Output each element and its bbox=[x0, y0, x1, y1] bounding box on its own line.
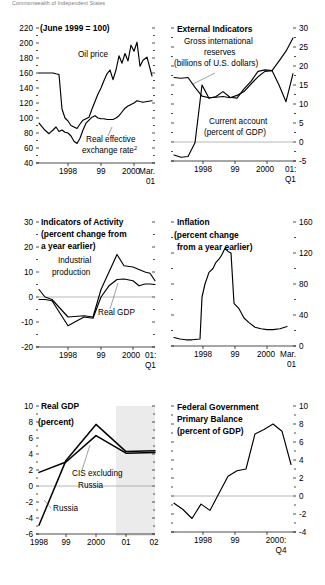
svg-text:220: 220 bbox=[19, 24, 33, 33]
svg-text:140: 140 bbox=[19, 84, 33, 93]
svg-text:40: 40 bbox=[24, 159, 34, 168]
x-axis-ticks bbox=[203, 532, 267, 535]
x-axis-ticks bbox=[68, 163, 134, 166]
series-inflation bbox=[174, 248, 287, 339]
svg-text:-20: -20 bbox=[21, 343, 33, 352]
series-label-reserves-units: (billions of U.S. dollars) bbox=[174, 59, 258, 68]
series-label-current-account-units: (percent of GDP) bbox=[204, 128, 266, 137]
panel-title-line2: (percent change from bbox=[41, 229, 127, 239]
leader-line-reserves bbox=[193, 73, 215, 84]
leader-line-russia bbox=[44, 500, 51, 508]
panel-real-gdp: 10 8 6 4 2 0 -2 -4 -6 Real GDP (percent)… bbox=[0, 388, 162, 583]
svg-text:160: 160 bbox=[299, 218, 313, 227]
series-label-industrial-line2: production bbox=[52, 268, 91, 277]
xtick-01-sub: Q1 bbox=[285, 175, 296, 184]
xtick-99: 99 bbox=[96, 167, 106, 176]
svg-text:5: 5 bbox=[299, 119, 304, 128]
series-label-reer-line2: exchange rate2 bbox=[82, 145, 137, 155]
svg-text:60: 60 bbox=[24, 144, 34, 153]
svg-text:160: 160 bbox=[19, 69, 33, 78]
series-label-russia: Russia bbox=[53, 504, 78, 513]
xtick-2000: 2000 bbox=[122, 167, 141, 176]
series-federal-primary-balance bbox=[174, 424, 291, 519]
svg-text:30: 30 bbox=[299, 24, 309, 33]
panel-external-indicators: 30 25 20 15 10 5 0 -5 External Indicator… bbox=[163, 14, 325, 209]
svg-text:-4: -4 bbox=[299, 528, 307, 537]
svg-text:10: 10 bbox=[299, 100, 309, 109]
leader-line-cis bbox=[82, 445, 90, 470]
series-label-reserves-line1: Gross international bbox=[184, 37, 253, 46]
xtick-mar: Mar. bbox=[280, 350, 296, 359]
svg-text:-2: -2 bbox=[26, 498, 34, 507]
xtick-99: 99 bbox=[230, 536, 240, 545]
svg-text:-2: -2 bbox=[299, 510, 307, 519]
panel-title-line2: (percent) bbox=[38, 417, 74, 427]
panel-title-line1: Indicators of Activity bbox=[41, 217, 124, 227]
panel-title-line2: Primary Balance bbox=[177, 414, 243, 424]
svg-text:-10: -10 bbox=[21, 318, 33, 327]
svg-text:6: 6 bbox=[299, 438, 304, 447]
xtick-1998: 1998 bbox=[194, 350, 213, 359]
series-label-real-gdp: Real GDP bbox=[98, 308, 135, 317]
svg-text:0: 0 bbox=[299, 138, 304, 147]
series-label-current-account: Current account bbox=[209, 117, 268, 126]
panel-title-line3: from a year earlier) bbox=[177, 242, 253, 252]
xtick-1998: 1998 bbox=[30, 538, 49, 547]
xtick-2000: 2000: bbox=[266, 536, 287, 545]
svg-text:80: 80 bbox=[24, 129, 34, 138]
svg-text:120: 120 bbox=[299, 249, 313, 258]
panel-indicators-of-activity: 30 20 10 0 -10 -20 Indicators of Activit… bbox=[0, 193, 162, 388]
svg-text:4: 4 bbox=[28, 450, 33, 459]
figure-container: Commonwealth of Independent States 220 2… bbox=[0, 0, 325, 585]
xtick-99: 99 bbox=[61, 538, 71, 547]
xtick-02: 02 bbox=[149, 538, 159, 547]
xtick-mar-sub: 01 bbox=[287, 360, 297, 369]
svg-text:80: 80 bbox=[299, 280, 309, 289]
xtick-1998: 1998 bbox=[194, 536, 213, 545]
xtick-2000: 2000 bbox=[256, 165, 275, 174]
svg-text:4: 4 bbox=[299, 456, 304, 465]
svg-text:180: 180 bbox=[19, 54, 33, 63]
x-axis-ticks bbox=[68, 347, 133, 350]
xtick-1998: 1998 bbox=[59, 167, 78, 176]
xtick-01-sub: Q1 bbox=[145, 361, 156, 370]
series-label-cis-line1: CIS excluding bbox=[72, 469, 123, 478]
svg-text:10: 10 bbox=[24, 268, 34, 277]
svg-text:-4: -4 bbox=[26, 514, 34, 523]
xtick-99: 99 bbox=[230, 165, 240, 174]
panel-title-line1: Federal Government bbox=[177, 402, 259, 412]
panel-title-line1: Real GDP bbox=[41, 401, 80, 411]
panel-title-line1: Inflation bbox=[177, 217, 210, 227]
svg-text:8: 8 bbox=[299, 420, 304, 429]
svg-text:2: 2 bbox=[28, 466, 33, 475]
panel-title-line3: a year earlier) bbox=[41, 241, 96, 251]
svg-text:6: 6 bbox=[28, 434, 33, 443]
series-label-industrial-line1: Industrial bbox=[58, 256, 91, 265]
xtick-99: 99 bbox=[230, 350, 240, 359]
svg-text:10: 10 bbox=[299, 402, 309, 411]
series-label-oil-price: Oil price bbox=[78, 50, 108, 59]
series-label-cis-line2: Russia bbox=[78, 481, 103, 490]
xtick-01: 01: bbox=[285, 165, 296, 174]
panel-inflation: 160 120 80 40 0 Inflation (percent chang… bbox=[163, 193, 325, 388]
xtick-2000: 2000 bbox=[87, 538, 106, 547]
svg-text:20: 20 bbox=[24, 243, 34, 252]
panel-federal-primary-balance: 10 8 6 4 2 0 -2 -4 Federal Government Pr… bbox=[163, 388, 325, 583]
series-label-reer-line1: Real effective bbox=[86, 135, 136, 144]
x-axis-ticks bbox=[203, 161, 267, 164]
xtick-mar-sub: 01 bbox=[146, 177, 156, 186]
svg-text:0: 0 bbox=[28, 293, 33, 302]
x-axis-ticks bbox=[203, 346, 267, 349]
svg-text:100: 100 bbox=[19, 114, 33, 123]
svg-text:-5: -5 bbox=[299, 157, 307, 166]
xtick-mar: Mar. bbox=[139, 167, 155, 176]
xtick-1998: 1998 bbox=[59, 351, 78, 360]
svg-text:0: 0 bbox=[28, 482, 33, 491]
svg-text:2: 2 bbox=[299, 474, 304, 483]
panel-title-line2: (percent change bbox=[174, 230, 239, 240]
panel-title: External Indicators bbox=[177, 24, 253, 34]
figure-title: Commonwealth of Independent States bbox=[12, 0, 105, 6]
xtick-99: 99 bbox=[96, 351, 106, 360]
svg-text:15: 15 bbox=[299, 81, 309, 90]
svg-text:200: 200 bbox=[19, 39, 33, 48]
